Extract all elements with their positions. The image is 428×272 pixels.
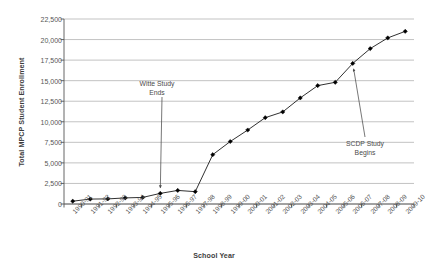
annotation-line: Begins [329, 148, 401, 157]
annotation-scdp-study-begins: SCDP StudyBegins [329, 139, 401, 158]
annotation-line: Witte Study [124, 79, 190, 88]
annotation-line: Ends [124, 88, 190, 97]
x-axis-tick-labels: 1990-911991-921992-931993-941994-951995-… [0, 0, 428, 272]
annotation-line: SCDP Study [329, 139, 401, 148]
chart-container: Total MPCP Student Enrollment School Yea… [0, 0, 428, 272]
annotation-witte-study-ends: Witte StudyEnds [124, 79, 190, 98]
